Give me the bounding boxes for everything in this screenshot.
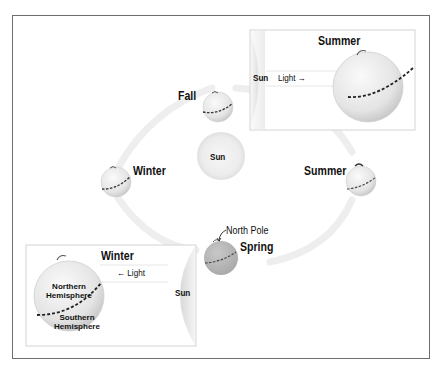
globe-spring-icon	[204, 230, 238, 275]
winter-inset-sun-label: Sun	[175, 289, 190, 298]
globe-fall-icon	[203, 92, 233, 123]
northern-label-line1: Northern	[44, 282, 94, 291]
southern-hemisphere-label: Southern Hemisphere	[52, 313, 102, 331]
arrow-left-icon: ←	[117, 268, 125, 278]
southern-label-line1: Southern	[52, 313, 102, 322]
label-fall: Fall	[178, 90, 196, 102]
label-summer: Summer	[304, 165, 346, 177]
globe-winter-icon	[101, 167, 131, 198]
summer-inset-title: Summer	[318, 35, 360, 47]
southern-label-line2: Hemisphere	[52, 322, 102, 331]
label-sun: Sun	[210, 153, 225, 162]
winter-inset-title: Winter	[101, 250, 134, 262]
arrow-right-icon: →	[298, 73, 306, 83]
summer-inset-light-label: Light →	[278, 74, 306, 83]
summer-inset-sun-label: Sun	[253, 74, 268, 83]
winter-inset-light-label: ← Light	[117, 269, 145, 278]
label-north-pole: North Pole	[226, 226, 269, 236]
summer-light-text: Light	[278, 73, 296, 83]
globe-summer-icon	[346, 164, 376, 196]
label-spring: Spring	[240, 241, 273, 253]
winter-light-text: Light	[127, 268, 145, 278]
northern-hemisphere-label: Northern Hemisphere	[44, 282, 94, 300]
northern-label-line2: Hemisphere	[44, 291, 94, 300]
label-winter: Winter	[133, 165, 166, 177]
